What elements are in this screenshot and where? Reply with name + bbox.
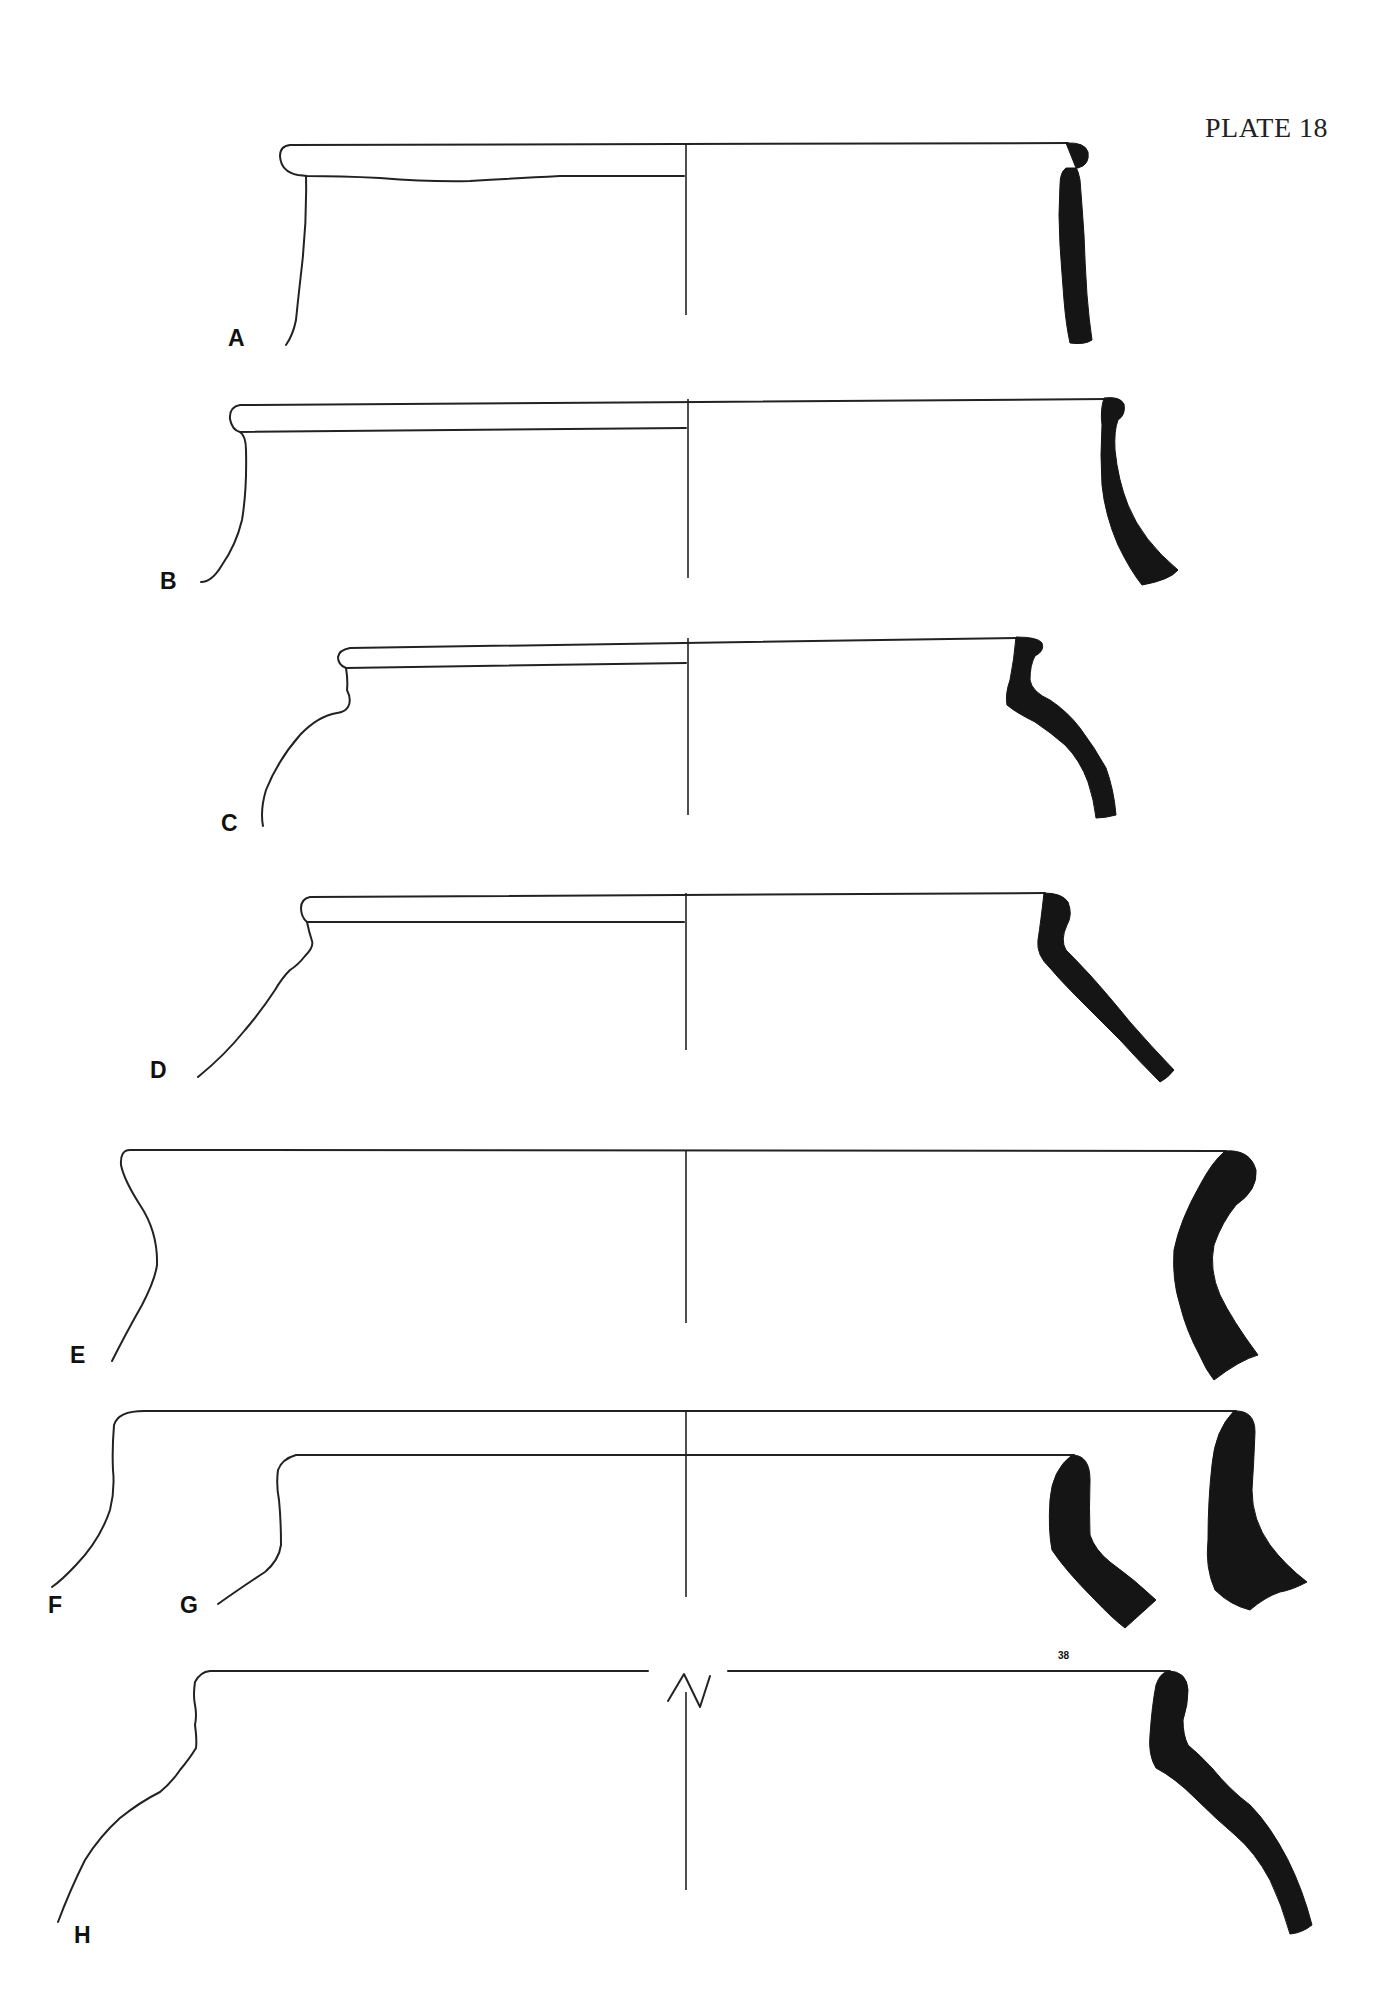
profile-f-section xyxy=(1207,1411,1307,1610)
profile-e-section xyxy=(1174,1151,1258,1380)
pottery-profiles-drawing xyxy=(0,0,1396,1995)
profile-c-section xyxy=(1006,637,1116,818)
profile-d-section xyxy=(1038,893,1174,1082)
axis-break-icon xyxy=(668,1674,710,1707)
profile-d xyxy=(198,893,1174,1082)
figure-label-h: H xyxy=(74,1922,91,1949)
profile-h-section xyxy=(1150,1671,1312,1934)
figure-label-b: B xyxy=(160,568,177,595)
profile-g xyxy=(218,1455,1156,1628)
profile-b-section xyxy=(1101,398,1178,585)
figure-label-a: A xyxy=(228,325,245,352)
figure-label-g: G xyxy=(180,1592,198,1619)
profile-b xyxy=(201,398,1178,585)
figure-label-e: E xyxy=(70,1342,85,1369)
profile-a xyxy=(280,143,1092,345)
profile-g-section xyxy=(1049,1455,1156,1628)
profile-e xyxy=(112,1150,1258,1380)
figure-label-c: C xyxy=(221,810,238,837)
profile-h xyxy=(58,1671,1312,1934)
figure-label-d: D xyxy=(150,1057,167,1084)
profile-a-section xyxy=(1059,143,1092,344)
profile-c xyxy=(262,637,1116,826)
page-number: 38 xyxy=(1058,1650,1069,1661)
figure-label-f: F xyxy=(48,1592,62,1619)
